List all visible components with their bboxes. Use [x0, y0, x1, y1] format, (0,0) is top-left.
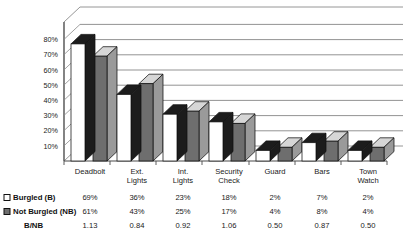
bar-not-burgled	[185, 102, 209, 161]
category-label-ext-lights-line1: Ext.	[130, 167, 143, 176]
table-cell-not-burgled-town-watch: 4%	[363, 207, 374, 216]
y-tick-label: 30%	[44, 111, 59, 120]
table-cell-not-burgled-bars: 8%	[317, 207, 328, 216]
category-label-security-check-line2: Check	[218, 176, 240, 185]
table-cell-ratio-guard: 0.50	[268, 221, 283, 230]
bar-not-burgled	[231, 114, 255, 161]
grouped-3d-bar-chart: 80% 70% 60% 50% 40% 30% 20% 10%	[0, 0, 410, 236]
table-cell-burgled-int-lights: 23%	[175, 193, 190, 202]
bar-group-deadbolt	[71, 34, 117, 161]
legend-label-not-burgled: Not Burgled (NB)	[13, 207, 77, 216]
table-cell-not-burgled-int-lights: 25%	[175, 207, 190, 216]
table-cell-ratio-security-check: 1.06	[222, 221, 237, 230]
bar-burgled	[302, 133, 326, 161]
table-cell-burgled-security-check: 18%	[221, 193, 236, 202]
table-cell-not-burgled-deadbolt: 61%	[82, 207, 97, 216]
bar-not-burgled	[324, 132, 348, 161]
bar-burgled	[209, 112, 233, 161]
bar-group-int-lights	[163, 102, 209, 161]
category-label-int-lights-line1: Int.	[178, 167, 189, 176]
y-tick-label: 50%	[44, 81, 59, 90]
data-table: Burgled (B) 69% 36% 23% 18% 2% 7% 2% Not…	[4, 193, 375, 230]
table-cell-ratio-int-lights: 0.92	[176, 221, 191, 230]
table-cell-not-burgled-ext-lights: 43%	[129, 207, 144, 216]
y-tick-label: 20%	[44, 126, 59, 135]
x-axis-category-labels: Deadbolt Ext. Lights Int. Lights Securit…	[75, 167, 379, 185]
table-cell-burgled-town-watch: 2%	[363, 193, 374, 202]
category-label-guard: Guard	[264, 167, 285, 176]
category-label-bars: Bars	[314, 167, 330, 176]
y-axis-tick-labels: 80% 70% 60% 50% 40% 30% 20% 10%	[44, 35, 59, 150]
legend-label-burgled: Burgled (B)	[13, 193, 56, 202]
bar-not-burgled	[93, 47, 117, 161]
x-axis-ticks	[64, 161, 387, 165]
bar-burgled	[71, 34, 95, 161]
table-cell-ratio-ext-lights: 0.84	[130, 221, 145, 230]
chart-canvas: 80% 70% 60% 50% 40% 30% 20% 10%	[0, 0, 410, 236]
table-cell-burgled-ext-lights: 36%	[129, 193, 144, 202]
table-cell-burgled-bars: 7%	[317, 193, 328, 202]
bar-burgled	[117, 85, 141, 161]
bar-group-ext-lights	[117, 74, 163, 161]
table-row-label-ratio: B/NB	[24, 221, 43, 230]
y-tick-label: 60%	[44, 66, 59, 75]
bar-not-burgled	[370, 138, 394, 161]
category-label-deadbolt: Deadbolt	[75, 167, 106, 176]
table-cell-burgled-guard: 2%	[270, 193, 281, 202]
bar-burgled	[348, 141, 372, 161]
category-label-town-watch-line1: Town	[359, 167, 377, 176]
y-tick-label: 40%	[44, 96, 59, 105]
y-tick-label: 10%	[44, 142, 59, 151]
table-cell-not-burgled-security-check: 17%	[221, 207, 236, 216]
bar-burgled	[163, 105, 187, 161]
bar-group-guard	[256, 138, 302, 161]
category-label-ext-lights-line2: Lights	[127, 176, 147, 185]
bar-group-town-watch	[348, 138, 394, 161]
category-label-town-watch-line2: Watch	[357, 176, 378, 185]
legend-swatch-burgled	[4, 195, 10, 201]
table-row-not-burgled: Not Burgled (NB) 61% 43% 25% 17% 4% 8% 4…	[4, 207, 374, 216]
bar-group-bars	[302, 132, 348, 161]
table-cell-ratio-town-watch: 0.50	[361, 221, 376, 230]
table-cell-not-burgled-guard: 4%	[270, 207, 281, 216]
y-tick-label: 70%	[44, 50, 59, 59]
y-tick-label: 80%	[44, 35, 59, 44]
table-row-ratio: B/NB 1.13 0.84 0.92 1.06 0.50 0.87 0.50	[24, 221, 375, 230]
bar-not-burgled	[139, 74, 163, 161]
table-row-burgled: Burgled (B) 69% 36% 23% 18% 2% 7% 2%	[4, 193, 374, 202]
bar-not-burgled	[278, 138, 302, 161]
legend-swatch-not-burgled	[4, 209, 10, 215]
table-cell-ratio-deadbolt: 1.13	[83, 221, 98, 230]
bar-group-security-check	[209, 112, 255, 161]
category-label-security-check-line1: Security	[215, 167, 243, 176]
category-label-int-lights-line2: Lights	[173, 176, 193, 185]
table-cell-burgled-deadbolt: 69%	[82, 193, 97, 202]
bar-burgled	[256, 141, 280, 161]
table-cell-ratio-bars: 0.87	[315, 221, 330, 230]
